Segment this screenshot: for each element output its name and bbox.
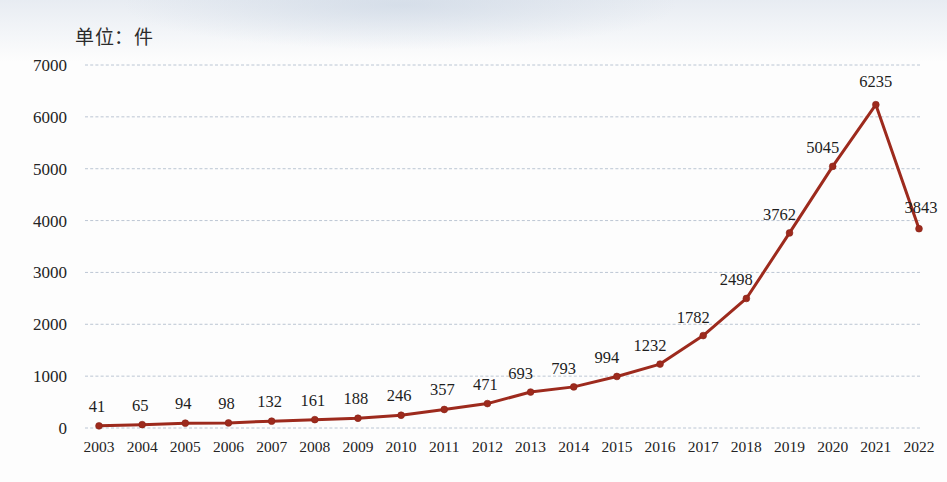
x-axis-tick-label: 2007: [256, 438, 287, 455]
data-point-marker: [268, 418, 275, 425]
data-point-label: 161: [300, 391, 325, 410]
data-point-marker: [613, 373, 620, 380]
y-axis-tick-label: 2000: [33, 315, 67, 334]
x-axis-tick-label: 2017: [688, 438, 719, 455]
data-point-marker: [570, 383, 577, 390]
x-axis-tick-label: 2013: [515, 438, 546, 455]
y-axis-tick-label: 6000: [33, 108, 67, 127]
x-axis-tick-label: 2019: [774, 438, 805, 455]
x-axis-tick-label: 2008: [299, 438, 330, 455]
data-point-label: 793: [551, 359, 576, 378]
data-point-label: 1782: [677, 308, 710, 327]
data-point-marker: [441, 406, 448, 413]
x-axis-tick-label: 2018: [731, 438, 762, 455]
y-axis-tick-label: 1000: [33, 367, 67, 386]
data-point-label: 471: [473, 375, 498, 394]
data-point-marker: [182, 420, 189, 427]
data-point-labels: 4165949813216118824635747169379399412321…: [89, 72, 938, 416]
data-point-marker: [916, 225, 923, 232]
x-axis-tick-label: 2015: [601, 438, 632, 455]
x-axis-tick-label: 2006: [213, 438, 244, 455]
data-point-label: 6235: [859, 72, 892, 91]
data-point-label: 94: [175, 394, 192, 413]
y-axis-tick-labels: 01000200030004000500060007000: [33, 56, 67, 438]
data-point-label: 357: [430, 380, 455, 399]
data-point-label: 132: [257, 392, 282, 411]
data-point-label: 3843: [905, 198, 938, 217]
data-point-marker: [657, 361, 664, 368]
data-point-label: 3762: [763, 205, 796, 224]
data-point-marker: [872, 101, 879, 108]
data-point-label: 994: [595, 348, 620, 367]
grid-lines: [85, 65, 921, 428]
x-axis-tick-label: 2003: [84, 438, 115, 455]
x-axis-tick-labels: 2003200420052006200720082009201020112012…: [84, 438, 935, 455]
x-axis-tick-label: 2004: [127, 438, 158, 455]
data-point-marker: [355, 415, 362, 422]
data-point-label: 41: [89, 397, 106, 416]
x-axis-tick-label: 2016: [645, 438, 676, 455]
chart-page: 单位：件 01000200030004000500060007000 20032…: [0, 0, 947, 482]
data-point-label: 188: [344, 389, 369, 408]
x-axis-tick-label: 2009: [342, 438, 373, 455]
data-point-marker: [829, 163, 836, 170]
x-axis-tick-label: 2020: [817, 438, 848, 455]
x-axis-tick-label: 2010: [386, 438, 417, 455]
x-axis-tick-label: 2011: [429, 438, 459, 455]
data-point-marker: [139, 421, 146, 428]
line-chart: 01000200030004000500060007000 2003200420…: [0, 0, 947, 482]
y-axis-tick-label: 7000: [33, 56, 67, 75]
data-point-marker: [527, 389, 534, 396]
data-point-label: 5045: [806, 138, 839, 157]
x-axis-tick-label: 2022: [904, 438, 935, 455]
y-axis-tick-label: 0: [59, 419, 68, 438]
data-point-marker: [311, 416, 318, 423]
y-axis-tick-label: 3000: [33, 263, 67, 282]
data-point-marker: [743, 295, 750, 302]
data-point-marker: [700, 332, 707, 339]
x-axis-tick-label: 2021: [860, 438, 891, 455]
data-point-label: 65: [132, 396, 149, 415]
x-axis-tick-label: 2005: [170, 438, 201, 455]
x-axis-tick-label: 2014: [558, 438, 589, 455]
data-point-label: 246: [387, 386, 412, 405]
data-point-label: 2498: [720, 270, 753, 289]
data-point-marker: [398, 412, 405, 419]
data-point-marker: [225, 420, 232, 427]
data-point-marker: [786, 230, 793, 237]
data-point-marker: [484, 400, 491, 407]
data-point-marker: [96, 422, 103, 429]
x-axis-tick-label: 2012: [472, 438, 503, 455]
data-point-label: 1232: [634, 336, 667, 355]
y-axis-tick-label: 5000: [33, 160, 67, 179]
y-axis-tick-label: 4000: [33, 212, 67, 231]
data-point-label: 693: [508, 364, 533, 383]
data-point-label: 98: [218, 394, 235, 413]
